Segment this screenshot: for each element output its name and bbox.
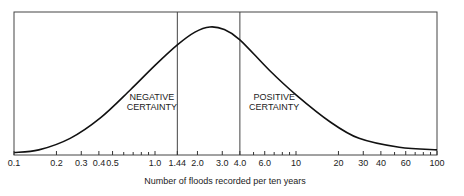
x-tick-label: 1.44 bbox=[169, 158, 187, 168]
x-tick-label: 2.0 bbox=[191, 158, 204, 168]
x-tick-label: 0.1 bbox=[8, 158, 21, 168]
distribution-curve bbox=[14, 27, 437, 153]
flood-frequency-chart: 0.10.20.30.40.51.01.442.03.04.06.0102030… bbox=[0, 0, 464, 196]
x-tick-label: 6.0 bbox=[258, 158, 271, 168]
x-tick-label: 10 bbox=[291, 158, 301, 168]
x-tick-label: 30 bbox=[358, 158, 368, 168]
x-tick-label: 60 bbox=[401, 158, 411, 168]
x-tick-label: 1.0 bbox=[149, 158, 162, 168]
x-tick-label: 3.0 bbox=[216, 158, 229, 168]
x-tick-label: 100 bbox=[429, 158, 444, 168]
region-label-line2: CERTAINTY bbox=[127, 102, 177, 112]
x-tick-label: 20 bbox=[333, 158, 343, 168]
x-tick-label: 0.5 bbox=[106, 158, 119, 168]
x-tick-label: 4.0 bbox=[234, 158, 247, 168]
x-tick-label: 0.3 bbox=[75, 158, 88, 168]
x-tick-label: 0.2 bbox=[50, 158, 63, 168]
region-label-line1: NEGATIVE bbox=[129, 92, 174, 102]
x-tick-label: 0.4 bbox=[93, 158, 106, 168]
region-label-line2: CERTAINTY bbox=[249, 102, 299, 112]
x-axis-label: Number of floods recorded per ten years bbox=[144, 176, 306, 186]
x-tick-label: 40 bbox=[376, 158, 386, 168]
region-label-line1: POSITIVE bbox=[253, 92, 295, 102]
